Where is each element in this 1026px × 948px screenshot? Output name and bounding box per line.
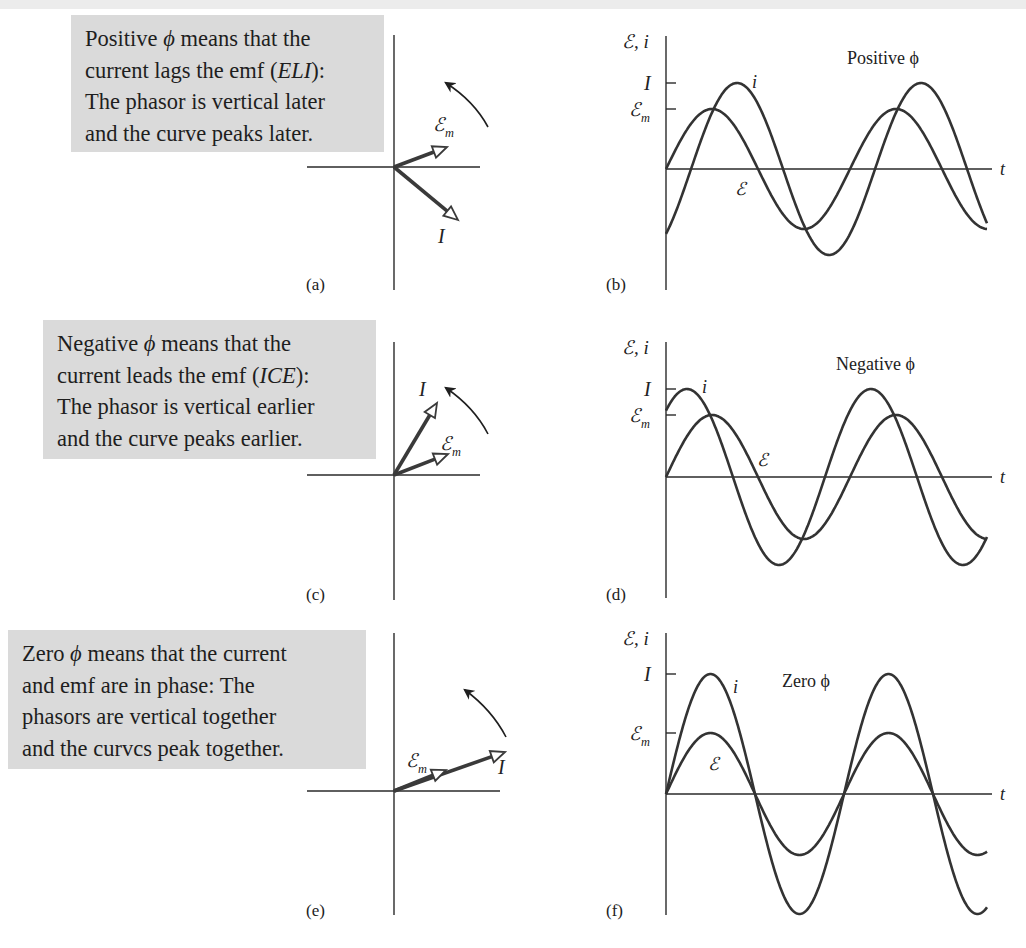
tick-label-Em: ℰm bbox=[629, 723, 650, 749]
tick-label-Em: ℰm bbox=[629, 405, 650, 431]
waveform-graphs: ℰ, itIℰmPositive ϕiℰ(b)ℰ, itIℰmNegative … bbox=[606, 31, 1006, 920]
emf-phasor-label: ℰm bbox=[433, 114, 454, 140]
emf-phasor bbox=[394, 152, 434, 167]
emf-phasor-label: ℰm bbox=[406, 750, 427, 776]
rotation-direction-arrow-icon bbox=[446, 388, 488, 434]
graph-title: Zero ϕ bbox=[782, 671, 830, 691]
rotation-direction-arrow-icon bbox=[446, 83, 488, 127]
current-curve-label: i bbox=[733, 677, 738, 697]
t-axis-label: t bbox=[1000, 467, 1006, 487]
panel-label-e: (e) bbox=[306, 901, 325, 920]
panel-label-b: (b) bbox=[606, 275, 626, 294]
panel-label-a: (a) bbox=[306, 275, 325, 294]
rotation-direction-arrow-icon bbox=[465, 690, 506, 737]
phasor-diagrams: ℰmI(a)ℰmI(c)ℰmI(e) bbox=[306, 35, 506, 920]
waveform-graph-b: ℰ, itIℰmPositive ϕiℰ(b) bbox=[606, 31, 1006, 294]
current-phasor-label: I bbox=[418, 378, 427, 400]
emf-curve-label: ℰ bbox=[757, 450, 770, 470]
phasor-diagram-a: ℰmI(a) bbox=[306, 35, 488, 294]
current-phasor bbox=[394, 167, 447, 211]
tick-label-I: I bbox=[643, 72, 652, 94]
figure-canvas: ℰmI(a)ℰmI(c)ℰmI(e) ℰ, itIℰmPositive ϕiℰ(… bbox=[0, 0, 1026, 948]
y-axis-label: ℰ, i bbox=[622, 31, 649, 52]
t-axis-label: t bbox=[1000, 784, 1006, 804]
graph-title: Negative ϕ bbox=[836, 354, 915, 374]
waveform-graph-d: ℰ, itIℰmNegative ϕiℰ(d) bbox=[606, 337, 1006, 604]
y-axis-label: ℰ, i bbox=[622, 337, 649, 358]
emf-phasor-arrowhead-icon bbox=[432, 146, 447, 157]
panel-label-c: (c) bbox=[306, 585, 325, 604]
waveform-graph-f: ℰ, itIℰmZero ϕiℰ(f) bbox=[606, 628, 1006, 920]
current-curve-label: i bbox=[752, 72, 757, 92]
emf-curve-label: ℰ bbox=[735, 179, 748, 199]
emf-curve-label: ℰ bbox=[708, 754, 721, 774]
y-axis-label: ℰ, i bbox=[622, 628, 649, 649]
tick-label-Em: ℰm bbox=[629, 99, 650, 125]
tick-label-I: I bbox=[643, 378, 652, 400]
panel-label-f: (f) bbox=[606, 901, 623, 920]
current-curve-label: i bbox=[702, 377, 707, 397]
phasor-diagram-e: ℰmI(e) bbox=[306, 633, 506, 920]
current-phasor-label: I bbox=[437, 225, 446, 247]
panel-label-d: (d) bbox=[606, 585, 626, 604]
emf-phasor bbox=[394, 775, 433, 791]
tick-label-I: I bbox=[643, 663, 652, 685]
current-phasor-label: I bbox=[497, 756, 506, 778]
emf-phasor-arrowhead-icon bbox=[433, 453, 448, 464]
t-axis-label: t bbox=[1000, 159, 1006, 179]
graph-title: Positive ϕ bbox=[847, 48, 919, 68]
phasor-diagram-c: ℰmI(c) bbox=[306, 342, 488, 604]
current-phasor bbox=[394, 415, 430, 475]
